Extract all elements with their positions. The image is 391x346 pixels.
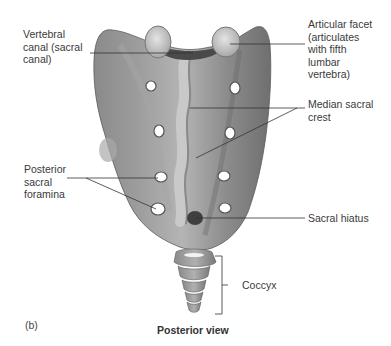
coccyx-bracket <box>215 256 222 314</box>
label-sacral-hiatus: Sacral hiatus <box>308 212 369 225</box>
label-median-sacral-crest: Median sacral crest <box>308 98 373 123</box>
coccyx-bone <box>174 249 216 312</box>
sacrum-posterior-figure: Vertebral canal (sacral canal) Articular… <box>0 0 391 346</box>
median-crest-shape <box>179 55 185 222</box>
label-articular-facet: Articular facet (articulates with fifth … <box>308 18 372 81</box>
label-coccyx: Coccyx <box>242 279 276 292</box>
panel-letter: (b) <box>25 319 38 331</box>
label-posterior-sacral-foramina: Posterior sacral foramina <box>24 163 66 201</box>
articular-facet-right <box>212 27 240 57</box>
label-vertebral-canal: Vertebral canal (sacral canal) <box>23 28 83 66</box>
figure-caption: Posterior view <box>157 324 229 336</box>
